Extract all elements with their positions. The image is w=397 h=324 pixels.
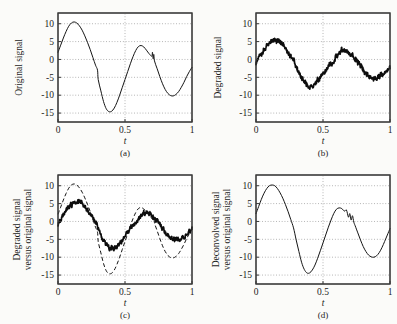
y-axis-label: Original signal [14, 39, 24, 96]
y-tick-label: -5 [244, 235, 252, 245]
y-tick-label: 10 [45, 181, 55, 191]
y-tick-label: 0 [247, 55, 252, 65]
x-axis-label: t [124, 298, 127, 308]
x-tick-label: 1 [388, 287, 393, 297]
subplot-b: 1050-5-10-1500.51t(b)Degraded signal [199, 0, 397, 163]
y-tick-label: 0 [49, 217, 54, 227]
y-tick-label: -10 [239, 252, 252, 262]
x-tick-label: 1 [388, 125, 393, 135]
x-tick-label: 0 [254, 287, 259, 297]
y-tick-label: -15 [239, 270, 252, 280]
x-tick-label: 0.5 [317, 125, 329, 135]
y-tick-label: -5 [244, 73, 252, 83]
x-tick-label: 0 [254, 125, 259, 135]
y-axis-label: Degraded signal [213, 36, 223, 98]
x-tick-label: 0 [56, 125, 61, 135]
y-tick-label: -10 [239, 90, 252, 100]
y-tick-label: 0 [49, 55, 54, 65]
subplot-caption: (b) [318, 148, 329, 158]
y-tick-label: 10 [45, 19, 55, 29]
x-tick-label: 1 [190, 125, 195, 135]
figure-container: 1050-5-10-1500.51t(a)Original signal 105… [0, 0, 397, 324]
y-axis-label: Deconvolved signal [211, 191, 221, 267]
x-tick-label: 0.5 [119, 125, 131, 135]
subplot-caption: (a) [120, 148, 130, 158]
subplot-a: 1050-5-10-1500.51t(a)Original signal [0, 0, 199, 163]
subplot-a-canvas: 1050-5-10-1500.51t(a)Original signal [0, 0, 199, 163]
x-tick-label: 0 [56, 287, 61, 297]
x-tick-label: 1 [190, 287, 195, 297]
y-tick-label: -15 [41, 270, 54, 280]
y-tick-label: 0 [247, 217, 252, 227]
y-tick-label: 5 [49, 37, 54, 47]
y-axis-label: Degraded signal [12, 198, 22, 260]
y-tick-label: 5 [247, 199, 252, 209]
subplot-d-canvas: 1050-5-10-1500.51t(d)Deconvolved signalv… [199, 161, 397, 324]
y-tick-label: 10 [243, 19, 253, 29]
subplot-c: 1050-5-10-1500.51t(c)Degraded signalvers… [0, 161, 199, 324]
y-tick-label: -15 [41, 108, 54, 118]
y-axis-label: versus original signal [222, 189, 232, 271]
x-axis-label: t [322, 136, 325, 146]
subplot-d: 1050-5-10-1500.51t(d)Deconvolved signalv… [199, 161, 397, 324]
subplot-caption: (d) [318, 310, 329, 320]
subplot-caption: (c) [120, 310, 130, 320]
subplot-b-canvas: 1050-5-10-1500.51t(b)Degraded signal [199, 0, 397, 163]
y-tick-label: -10 [41, 90, 54, 100]
y-tick-label: -10 [41, 252, 54, 262]
subplot-c-canvas: 1050-5-10-1500.51t(c)Degraded signalvers… [0, 161, 199, 324]
y-tick-label: 10 [243, 181, 253, 191]
x-axis-label: t [124, 136, 127, 146]
y-tick-label: -15 [239, 108, 252, 118]
x-axis-label: t [322, 298, 325, 308]
x-tick-label: 0.5 [317, 287, 329, 297]
y-tick-label: -5 [46, 73, 54, 83]
y-axis-label: versus original signal [23, 189, 33, 271]
y-tick-label: 5 [247, 37, 252, 47]
y-tick-label: 5 [49, 199, 54, 209]
x-tick-label: 0.5 [119, 287, 131, 297]
y-tick-label: -5 [46, 235, 54, 245]
